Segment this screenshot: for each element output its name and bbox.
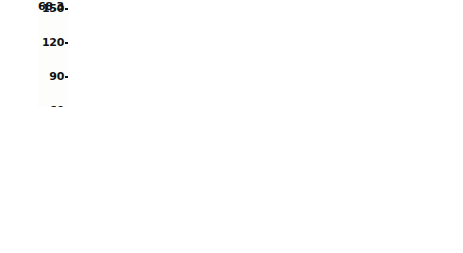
y-tick-label-60: 60	[38, 104, 64, 107]
bar-chart: 150 120 90 60 30 0	[38, 0, 68, 107]
y-tick-label-90: 90	[38, 70, 64, 83]
y-tick-mark-150	[65, 8, 68, 10]
bar-value-nfld: 68.3	[38, 0, 64, 13]
y-tick-mark-90	[65, 76, 68, 78]
plot-area: 150 120 90 60 30 0	[38, 0, 68, 107]
y-tick-mark-120	[65, 42, 68, 44]
y-tick-label-120: 120	[38, 36, 64, 49]
